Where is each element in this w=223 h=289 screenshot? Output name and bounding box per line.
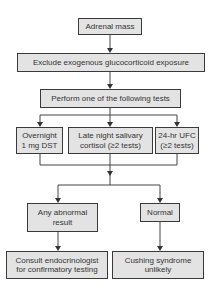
- node-label: Exclude exogenous glucocorticoid exposur…: [33, 58, 189, 68]
- node-late-night-salivary: Late night salivary cortisol (≥2 tests): [68, 127, 153, 154]
- node-label-line2: unlikely: [125, 265, 192, 275]
- node-cushing-unlikely: Cushing syndrome unlikely: [112, 251, 204, 279]
- node-any-abnormal: Any abnormal result: [27, 203, 98, 232]
- node-label-line2: cortisol (≥2 tests): [78, 141, 142, 151]
- node-label-line2: result: [38, 218, 87, 228]
- node-adrenal-mass: Adrenal mass: [78, 18, 142, 35]
- node-exclude-glucocorticoid: Exclude exogenous glucocorticoid exposur…: [17, 53, 205, 72]
- node-label-line1: Late night salivary: [78, 131, 142, 141]
- node-label: Adrenal mass: [86, 22, 135, 32]
- node-consult-endocrinologist: Consult endocrinologist for confirmatory…: [6, 251, 108, 279]
- node-label-line1: Any abnormal: [38, 208, 87, 218]
- node-label-line2: for confirmatory testing: [15, 265, 98, 275]
- node-label-line2: 1 mg DST: [21, 141, 57, 151]
- node-label-line2: (≥2 tests): [158, 141, 195, 151]
- node-label-line1: Consult endocrinologist: [15, 256, 98, 266]
- node-label: Normal: [147, 208, 173, 218]
- node-overnight-dst: Overnight 1 mg DST: [16, 127, 63, 154]
- node-24hr-ufc: 24-hr UFC (≥2 tests): [155, 127, 199, 154]
- node-label-line1: Cushing syndrome: [125, 256, 192, 266]
- node-label: Perform one of the following tests: [51, 94, 170, 104]
- node-label-line1: Overnight: [21, 131, 57, 141]
- node-normal: Normal: [140, 203, 180, 222]
- node-label-line1: 24-hr UFC: [158, 131, 195, 141]
- node-perform-tests: Perform one of the following tests: [40, 89, 181, 108]
